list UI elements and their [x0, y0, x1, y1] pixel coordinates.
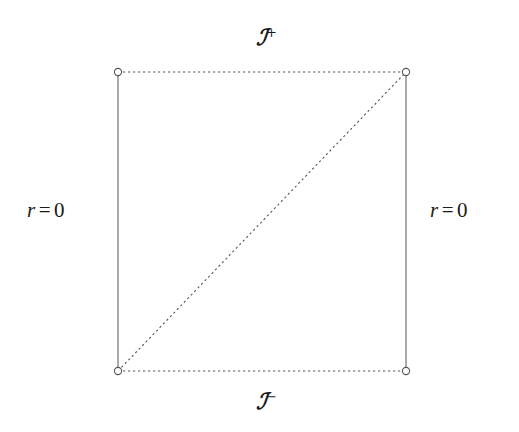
r-right-variable: r — [430, 198, 439, 222]
top-right-vertex-marker — [402, 68, 409, 75]
bottom-left-vertex-marker — [114, 367, 121, 374]
r-left-operator: = — [39, 198, 51, 222]
label-scri-plus: ℐ+ — [256, 26, 277, 48]
scri-minus-superscript: − — [266, 389, 277, 404]
top-left-vertex-marker — [114, 68, 121, 75]
bottom-right-vertex-marker — [402, 367, 409, 374]
r-left-variable: r — [27, 198, 36, 222]
penrose-diagram-figure: ℐ+ ℐ− r=0 r=0 — [0, 0, 519, 432]
label-r-equals-zero-left: r=0 — [27, 200, 65, 221]
scri-glyph-minus: ℐ — [256, 389, 268, 411]
diagonal-null-ray-line — [118, 72, 406, 371]
scri-plus-superscript: + — [266, 25, 277, 40]
r-right-value: 0 — [457, 198, 468, 222]
scri-glyph-plus: ℐ — [256, 25, 268, 47]
label-scri-minus: ℐ− — [256, 390, 277, 412]
r-left-value: 0 — [54, 198, 65, 222]
r-right-operator: = — [442, 198, 454, 222]
label-r-equals-zero-right: r=0 — [430, 200, 468, 221]
